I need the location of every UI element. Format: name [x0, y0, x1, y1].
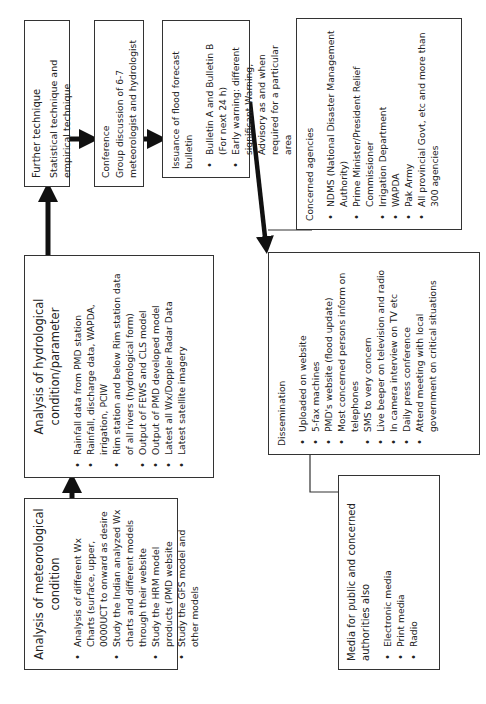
list-item: Rainfall, discharge data, WAPDA, irrigat… — [84, 264, 110, 455]
list-item: SMS to very concern — [361, 261, 374, 432]
list-item: Live beeper on television and radio — [374, 261, 387, 432]
list-item: Rim station and below Rim station data o… — [110, 264, 136, 455]
dissemination-list: Uploaded on website 5-fax machines PMD's… — [296, 261, 439, 446]
media-box: Media for public and concerned authoriti… — [338, 475, 440, 670]
list-item: Latest all Wx/Doppler Radar Data — [162, 264, 175, 455]
list-item: Output of PMD developed model — [149, 264, 162, 455]
issuance-box: Issuance of flood forecast bulletin Bull… — [162, 20, 250, 178]
further-technique-box: Further technique Statistical technique … — [24, 20, 70, 187]
list-item: Study the GFS model and other models — [175, 507, 201, 647]
list-item: Most concerned persons inform on telepho… — [335, 261, 361, 432]
hydro-analysis-list: Rainfall data from PMD station Rainfall,… — [71, 264, 188, 469]
list-item: Pak Army — [402, 27, 415, 207]
list-item: Analysis of different Wx Charts (surface… — [71, 507, 110, 647]
list-item: Early warning: different significant War… — [229, 29, 294, 155]
list-item: Output of FEWS and CLS model — [136, 264, 149, 455]
list-item: Latest satellite imagery — [175, 264, 188, 455]
dissemination-box: Dissemination Uploaded on website 5-fax … — [268, 252, 480, 455]
list-item: Print media — [394, 484, 407, 647]
conference-title: Conference — [99, 29, 112, 178]
list-item: Daily press conference — [400, 261, 413, 432]
hydro-analysis-box: Analysis of hydrological condition/param… — [24, 255, 214, 478]
flood-forecast-flowchart: Analysis of meteorological condition Ana… — [0, 0, 486, 704]
media-list: Electronic media Print media Radio — [381, 484, 420, 661]
hydro-analysis-title: Analysis of hydrological condition/param… — [31, 264, 63, 469]
connector-media — [310, 455, 338, 492]
media-title: Media for public and concerned authoriti… — [345, 484, 373, 661]
list-item: Electronic media — [381, 484, 394, 647]
issuance-list: Bulletin A and Bulletin B (For next 24 h… — [203, 29, 294, 169]
list-item: Attend meeting with local government on … — [413, 261, 439, 432]
list-item: WAPDA — [389, 27, 402, 207]
agencies-box: Concerned agencies NDMS (National Disast… — [296, 18, 462, 230]
list-item: Irrigation Department — [376, 27, 389, 207]
list-item: Study the HRM model products (PMD websit… — [149, 507, 175, 647]
further-technique-title: Further technique — [30, 29, 44, 178]
list-item: Rainfall data from PMD station — [71, 264, 84, 455]
list-item: 5-fax machines — [309, 261, 322, 432]
met-analysis-list: Analysis of different Wx Charts (surface… — [71, 507, 201, 661]
agencies-title: Concerned agencies — [303, 27, 316, 221]
conference-text: Group discussion of 6-7 meteorologist an… — [113, 29, 139, 178]
conference-box: Conference Group discussion of 6-7 meteo… — [94, 20, 144, 187]
list-item: NDMS (National Disaster Management Autho… — [324, 27, 350, 207]
list-item: All provincial Govt, etc and more than 3… — [415, 27, 441, 207]
list-item: In camera interview on TV etc — [387, 261, 400, 432]
met-analysis-title: Analysis of meteorological condition — [31, 507, 63, 661]
list-item: Study the Indian analyzed Wx charts and … — [110, 507, 149, 647]
met-analysis-box: Analysis of meteorological condition Ana… — [24, 498, 178, 670]
list-item: Uploaded on website — [296, 261, 309, 432]
list-item: Bulletin A and Bulletin B (For next 24 h… — [203, 29, 229, 155]
agencies-list: NDMS (National Disaster Management Autho… — [324, 27, 441, 221]
further-technique-text: Statistical technique and empirical tech… — [47, 29, 73, 178]
list-item: Prime Minister/President Relief Commissi… — [350, 27, 376, 207]
list-item: PMD's website (flood update) — [322, 261, 335, 432]
issuance-title: Issuance of flood forecast bulletin — [169, 29, 195, 169]
list-item: Radio — [407, 484, 420, 647]
dissemination-title: Dissemination — [275, 261, 288, 446]
